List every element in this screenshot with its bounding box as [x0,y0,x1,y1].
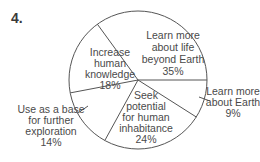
slice-label-learn-about-earth: Learn more about Earth 9% [206,85,260,119]
svg-text:9%: 9% [225,107,240,119]
svg-text:24%: 24% [135,133,156,145]
svg-text:beyond Earth: beyond Earth [142,53,205,65]
svg-text:14%: 14% [40,136,61,148]
svg-text:35%: 35% [162,65,183,77]
svg-text:about life: about life [152,41,195,53]
slice-label-base-for-exploration: Use as a base for further exploration 14… [17,103,84,148]
pie-chart: Learn more about life beyond Earth 35% I… [0,0,260,162]
svg-text:18%: 18% [99,79,120,91]
svg-text:Learn more: Learn more [146,29,200,41]
